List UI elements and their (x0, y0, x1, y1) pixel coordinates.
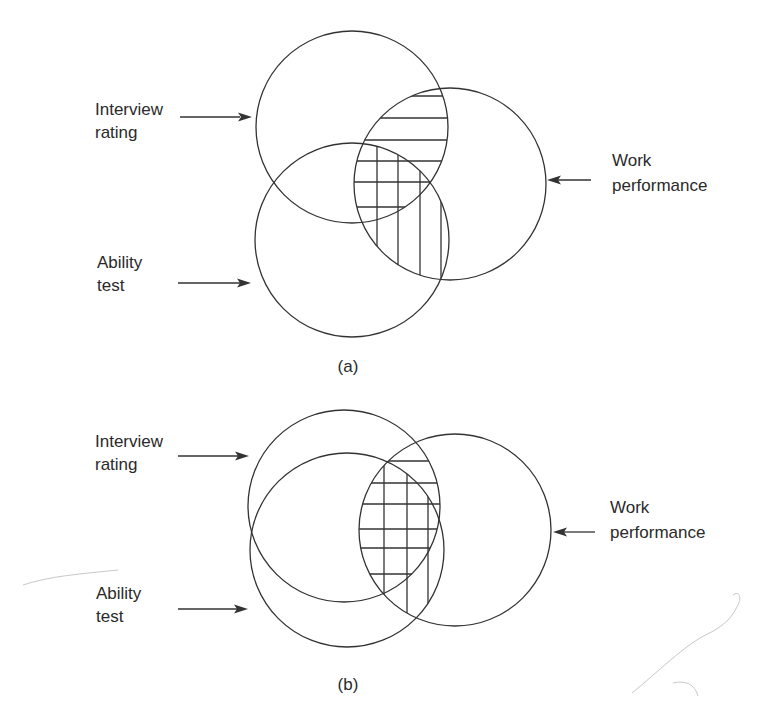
hatch-ability-work (377, 80, 441, 300)
hatch-interview-work (340, 461, 560, 574)
caption-b: (b) (338, 675, 359, 694)
arrow-ability (178, 605, 248, 614)
arrow-work (553, 528, 595, 537)
label-work-line2: performance (610, 523, 705, 542)
arrow-interview (180, 113, 252, 122)
arrow-ability (178, 279, 251, 288)
label-ability-line2: test (96, 607, 124, 626)
label-ability-line2: test (97, 276, 125, 295)
circle-work-performance (354, 88, 546, 280)
pencil-stroke (23, 570, 118, 585)
label-interview-line2: rating (95, 455, 138, 474)
pencil-stroke (632, 593, 740, 693)
hatch-ability-work (384, 420, 428, 660)
panel-a: Interview rating Ability test Work perfo… (95, 31, 707, 376)
panel-b: Interview rating Ability test Work perfo… (95, 410, 705, 694)
caption-a: (a) (338, 357, 359, 376)
label-interview-line2: rating (95, 123, 138, 142)
label-work-line1: Work (610, 498, 650, 517)
hatch-interview-work (340, 96, 560, 207)
label-interview-line1: Interview (95, 432, 164, 451)
arrow-work (547, 176, 591, 185)
label-ability-line1: Ability (96, 584, 142, 603)
label-work-line2: performance (612, 176, 707, 195)
circle-interview-rating (248, 410, 440, 602)
label-ability-line1: Ability (97, 253, 143, 272)
venn-figure: Interview rating Ability test Work perfo… (0, 0, 761, 710)
label-interview-line1: Interview (95, 100, 164, 119)
circle-work-performance (359, 434, 551, 626)
label-work-line1: Work (612, 151, 652, 170)
pencil-stroke (673, 682, 698, 696)
circle-interview-rating (256, 31, 448, 223)
arrow-interview (178, 452, 249, 461)
